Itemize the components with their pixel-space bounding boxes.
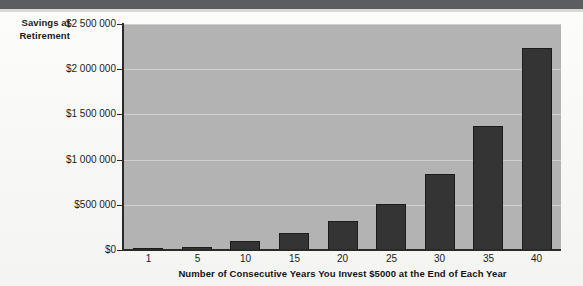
x-axis-tick-label: 15 (270, 253, 319, 264)
y-axis-tick (117, 250, 123, 251)
bar (425, 174, 455, 250)
x-axis-tick-label: 20 (318, 253, 367, 264)
y-axis-tick-labels: $0$500 000$1 000 000$1 500 000$2 000 000… (6, 0, 116, 286)
x-axis-tick-label: 40 (512, 253, 561, 264)
x-axis-title: Number of Consecutive Years You Invest $… (124, 268, 561, 279)
y-axis-tick-label: $1 000 000 (8, 154, 116, 165)
x-axis-tick-label: 25 (367, 253, 416, 264)
x-axis-tick-labels: 1510152025303540 (124, 253, 561, 269)
y-axis-tick-label: $500 000 (8, 199, 116, 210)
y-axis-tick (117, 160, 123, 161)
bar-series (124, 24, 561, 250)
y-axis-tick (117, 114, 123, 115)
x-axis-tick-label: 1 (124, 253, 173, 264)
x-axis-line (122, 249, 561, 251)
y-axis-tick (117, 24, 123, 25)
y-axis-tick-label: $1 500 000 (8, 108, 116, 119)
y-axis-tick (117, 69, 123, 70)
y-axis-tick-label: $0 (8, 244, 116, 255)
x-axis-tick-label: 35 (464, 253, 513, 264)
y-axis-line (122, 23, 124, 251)
y-axis-tick (117, 205, 123, 206)
y-axis-tick-label: $2 500 000 (8, 18, 116, 29)
bar (473, 126, 503, 250)
bar (522, 48, 552, 250)
x-axis-tick-label: 5 (173, 253, 222, 264)
chart-page: Savings at Retirement $0$500 000$1 000 0… (0, 0, 583, 286)
x-axis-tick-label: 10 (221, 253, 270, 264)
x-axis-tick-label: 30 (415, 253, 464, 264)
bar (376, 204, 406, 250)
bar (279, 233, 309, 250)
bar (328, 221, 358, 250)
y-axis-tick-label: $2 000 000 (8, 63, 116, 74)
